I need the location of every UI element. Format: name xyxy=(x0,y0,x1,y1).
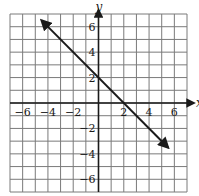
x-axis-label: x xyxy=(196,96,199,110)
y-tick-label: −6 xyxy=(79,173,95,186)
axes xyxy=(10,10,194,192)
y-axis-label: y xyxy=(95,0,103,14)
x-tick-label: 6 xyxy=(171,106,178,119)
x-tick-label: −6 xyxy=(15,106,31,119)
y-tick-label: −4 xyxy=(79,148,95,161)
x-tick-label: 2 xyxy=(120,106,127,119)
x-tick-label: 4 xyxy=(146,106,153,119)
y-tick-label: −2 xyxy=(79,122,95,135)
coordinate-plane: −6−4−2246642−2−4−6 x y xyxy=(0,0,199,196)
x-tick-label: −2 xyxy=(65,106,81,119)
x-tick-label: −4 xyxy=(40,106,56,119)
y-tick-label: 6 xyxy=(89,21,96,34)
y-tick-label: 4 xyxy=(89,46,96,59)
